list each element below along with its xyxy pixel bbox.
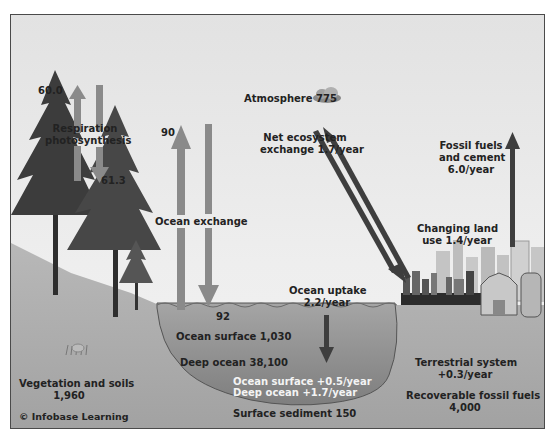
- recoverable-fossil-label: Recoverable fossil fuels: [406, 390, 524, 402]
- fossil-fuels-label-1: Fossil fuels: [439, 140, 503, 152]
- copyright-credit: © Infobase Learning: [19, 411, 129, 423]
- ocean-uptake-label-1: Ocean uptake: [289, 285, 365, 297]
- fossil-fuels-arrow-up: [505, 132, 520, 247]
- land-use-label-2: use 1.4/year: [417, 235, 497, 247]
- fossil-fuels-label-3: 6.0/year: [439, 164, 503, 176]
- terrestrial-system-label-2: +0.3/year: [415, 369, 515, 381]
- net-ecosystem-label-1: Net ecosystem: [260, 132, 350, 144]
- respiration-value: 60.0: [38, 85, 63, 97]
- carbon-cycle-diagram: 60.0 Respiration photosynthesis 61.3 90 …: [10, 14, 545, 429]
- photosynthesis-value: 61.3: [101, 175, 126, 187]
- deep-ocean-reservoir: Deep ocean 38,100: [180, 357, 288, 369]
- recoverable-fossil-value: 4,000: [406, 402, 524, 414]
- atmosphere-reservoir: Atmosphere 775: [244, 93, 337, 105]
- deep-ocean-change: Deep ocean +1.7/year: [233, 387, 351, 399]
- ocean-surface-reservoir: Ocean surface 1,030: [176, 331, 291, 343]
- terrestrial-system-label-1: Terrestrial system: [415, 357, 515, 369]
- ocean-exchange-up-value: 90: [161, 127, 175, 139]
- surface-sediment-reservoir: Surface sediment 150: [233, 408, 351, 420]
- ocean-exchange-label: Ocean exchange: [155, 216, 237, 228]
- photosynthesis-label: photosynthesis: [45, 135, 125, 147]
- vegetation-soils-label: Vegetation and soils: [19, 378, 119, 390]
- vegetation-soils-value: 1,960: [19, 390, 119, 402]
- barn-icon: [481, 273, 541, 317]
- fossil-fuels-label-2: and cement: [439, 152, 503, 164]
- ocean-exchange-down-value: 92: [216, 311, 230, 323]
- land-use-label-1: Changing land: [417, 223, 497, 235]
- net-ecosystem-label-2: exchange 1.7/year: [260, 144, 350, 156]
- ocean-uptake-label-2: 2.2/year: [289, 297, 365, 309]
- respiration-label: Respiration: [45, 123, 125, 135]
